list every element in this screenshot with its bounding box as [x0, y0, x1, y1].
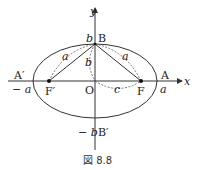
- neg-a-label: − a: [12, 83, 31, 96]
- point-b-prime-label: B′: [98, 126, 109, 139]
- segment-b-label: b: [85, 56, 92, 69]
- segment-left-a-label: a: [62, 50, 69, 63]
- a-label: a: [160, 83, 167, 96]
- origin-label: O: [85, 84, 94, 97]
- segment-c-label: c: [114, 83, 120, 96]
- point-b-label: B: [98, 32, 106, 45]
- vertex-b-dot: [94, 43, 97, 46]
- x-axis-label: x: [184, 75, 191, 88]
- neg-b-label: − b: [78, 126, 98, 139]
- point-f-label: F: [137, 85, 145, 98]
- segment-right-a-label: a: [122, 50, 129, 63]
- b-label: b: [86, 32, 93, 45]
- point-a-label: A: [160, 69, 170, 82]
- focus-f-prime-dot: [47, 79, 51, 83]
- focus-f-dot: [139, 79, 143, 83]
- y-axis-label: y: [89, 5, 97, 18]
- ellipse-diagram: y x b B A′ A − a a F′ F O a a b c − b B′…: [0, 0, 199, 170]
- segment-b-f: [95, 44, 141, 81]
- point-f-prime-label: F′: [45, 85, 56, 98]
- point-a-prime-label: A′: [13, 69, 25, 82]
- figure-caption: 図 8.8: [83, 155, 112, 166]
